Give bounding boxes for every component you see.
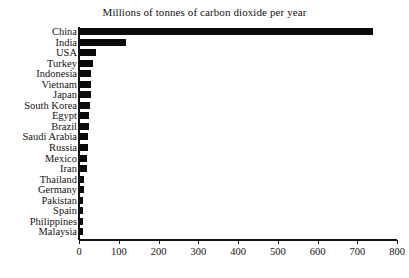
- bar: [79, 123, 89, 130]
- x-axis-tick-label: 800: [389, 246, 405, 258]
- category-label: Germany: [38, 184, 77, 195]
- x-axis-tick: [79, 240, 80, 244]
- x-axis-tick-label: 500: [270, 246, 286, 258]
- category-label: Brazil: [51, 121, 77, 132]
- bar: [79, 49, 96, 56]
- x-axis-tick: [119, 240, 120, 244]
- bar: [79, 133, 88, 140]
- x-axis-tick: [397, 240, 398, 244]
- x-axis-tick-label: 600: [310, 246, 326, 258]
- category-label: Spain: [53, 205, 77, 216]
- category-label: Egypt: [52, 110, 77, 121]
- category-label: China: [52, 26, 77, 37]
- chart-title: Millions of tonnes of carbon dioxide per…: [0, 6, 409, 19]
- x-axis-tick-label: 300: [190, 246, 206, 258]
- bar: [79, 218, 83, 225]
- bar: [79, 28, 373, 35]
- x-axis-tick: [278, 240, 279, 244]
- category-label: USA: [56, 47, 77, 58]
- bar: [79, 112, 89, 119]
- category-label: Iran: [60, 163, 77, 174]
- category-label: Indonesia: [36, 68, 77, 79]
- bar: [79, 155, 87, 162]
- bar: [79, 144, 88, 151]
- x-axis-tick-label: 0: [76, 246, 81, 258]
- plot-area: ChinaIndiaUSATurkeyIndonesiaVietnamJapan…: [0, 27, 409, 239]
- category-label: Russia: [49, 142, 77, 153]
- x-axis-tick-label: 400: [230, 246, 246, 258]
- bar-row: Malaysia: [0, 227, 409, 238]
- x-axis-tick: [159, 240, 160, 244]
- category-label: India: [55, 37, 77, 48]
- x-axis-tick-label: 200: [151, 246, 167, 258]
- bar: [79, 186, 84, 193]
- bar: [79, 60, 93, 67]
- category-label: Thailand: [40, 174, 77, 185]
- category-label: Turkey: [47, 58, 77, 69]
- y-axis-line: [78, 27, 80, 240]
- bar: [79, 70, 91, 77]
- category-label: Philippines: [30, 216, 77, 227]
- x-axis-tick: [198, 240, 199, 244]
- bar: [79, 165, 87, 172]
- x-axis-tick: [357, 240, 358, 244]
- category-label: Saudi Arabia: [22, 131, 77, 142]
- chart-page: Millions of tonnes of carbon dioxide per…: [0, 0, 409, 278]
- category-label: Japan: [53, 89, 77, 100]
- category-label: Vietnam: [41, 79, 77, 90]
- category-label: Pakistan: [41, 195, 77, 206]
- x-axis-tick-label: 700: [349, 246, 365, 258]
- x-axis-tick: [238, 240, 239, 244]
- category-label: Malaysia: [39, 226, 78, 237]
- bar: [79, 102, 90, 109]
- bar: [79, 91, 91, 98]
- category-label: South Korea: [24, 100, 77, 111]
- bar: [79, 197, 83, 204]
- category-label: Mexico: [45, 153, 77, 164]
- bar: [79, 207, 83, 214]
- bar: [79, 228, 83, 235]
- bar: [79, 81, 91, 88]
- bar: [79, 39, 126, 46]
- x-axis-tick-label: 100: [111, 246, 127, 258]
- bar: [79, 176, 84, 183]
- x-axis-tick: [318, 240, 319, 244]
